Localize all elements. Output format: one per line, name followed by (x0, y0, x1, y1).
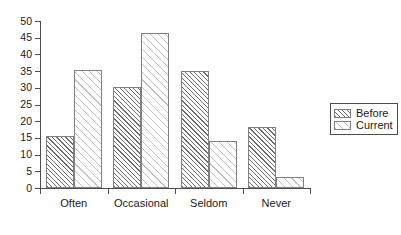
y-axis-tick-label: 30 (0, 82, 32, 93)
x-axis-tick (175, 189, 176, 194)
bar-before-often (46, 136, 74, 188)
x-axis-tick (40, 189, 41, 194)
bar-current-seldom (209, 141, 237, 188)
legend-label-current: Current (356, 120, 393, 131)
plot-area (40, 21, 310, 188)
x-axis-category-label: Often (40, 198, 108, 209)
y-axis-tick-label: 15 (0, 132, 32, 143)
bar-before-occasional (113, 87, 141, 188)
x-axis-category-label: Seldom (175, 198, 243, 209)
bar-before-never (248, 127, 276, 188)
y-axis-tick-label: 25 (0, 99, 32, 110)
y-axis-tick-label: 5 (0, 166, 32, 177)
chart-legend: Before Current (330, 103, 398, 135)
x-axis-category-label: Never (243, 198, 311, 209)
bar-before-seldom (181, 71, 209, 188)
x-axis-tick (108, 189, 109, 194)
legend-item-current: Current (334, 119, 393, 131)
x-axis-tick (310, 189, 311, 194)
y-axis-tick-label: 45 (0, 32, 32, 43)
bar-chart-figure: 05101520253035404550 OftenOccasionalSeld… (0, 0, 401, 235)
bar-current-often (74, 70, 102, 188)
bar-current-occasional (141, 33, 169, 188)
x-axis-tick (243, 189, 244, 194)
legend-swatch-current-icon (334, 121, 351, 130)
y-axis-tick-label: 20 (0, 116, 32, 127)
legend-item-before: Before (334, 107, 393, 119)
legend-swatch-before-icon (334, 109, 351, 118)
x-axis-category-label: Occasional (108, 198, 176, 209)
legend-label-before: Before (356, 108, 388, 119)
bar-current-never (276, 177, 304, 188)
y-axis-tick-label: 35 (0, 66, 32, 77)
y-axis-tick-label: 40 (0, 49, 32, 60)
y-axis-tick-label: 50 (0, 16, 32, 27)
y-axis-tick-label: 0 (0, 183, 32, 194)
y-axis-tick-label: 10 (0, 149, 32, 160)
